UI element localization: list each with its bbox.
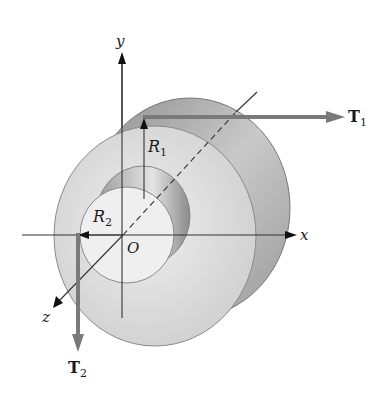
y-axis-arrowhead: [118, 52, 126, 64]
t2-label: T2: [68, 358, 87, 380]
z-axis-label: z: [41, 308, 50, 326]
x-axis-arrowhead: [285, 231, 297, 239]
origin-label: O: [127, 239, 139, 257]
t1-label: T1: [348, 107, 367, 129]
cylinder-torque-diagram: y x z O R1 R2 T1 T2: [0, 0, 377, 398]
y-axis-label: y: [115, 32, 125, 50]
x-axis-label: x: [300, 226, 309, 244]
